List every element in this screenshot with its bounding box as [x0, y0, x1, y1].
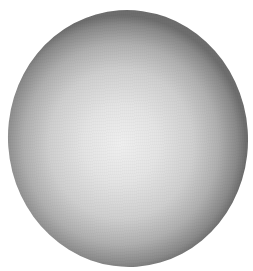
- sphere-texture: [0, 2, 253, 271]
- sphere: [0, 2, 253, 271]
